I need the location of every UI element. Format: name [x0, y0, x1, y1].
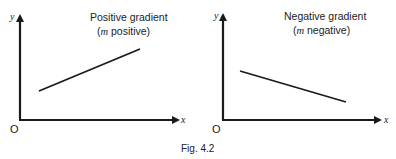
figure-caption: Fig. 4.2: [181, 143, 215, 154]
y-axis-label: y: [213, 10, 219, 21]
panel-subtitle: (m negative): [293, 24, 350, 36]
positive-gradient-line: [39, 49, 140, 91]
panel-title: Negative gradient: [284, 10, 366, 22]
x-axis-label: x: [383, 114, 389, 125]
negative-gradient-panel: y x O Negative gradient (m negative): [212, 10, 389, 135]
x-axis-label: x: [180, 114, 186, 125]
positive-gradient-panel: y x O Positive gradient (m positive): [9, 11, 186, 135]
negative-gradient-line: [240, 71, 346, 102]
panel-subtitle: (m positive): [97, 25, 150, 37]
y-axis-label: y: [9, 11, 15, 22]
origin-label: O: [212, 123, 221, 135]
figure-canvas: y x O Positive gradient (m positive) y x…: [0, 0, 396, 159]
origin-label: O: [10, 123, 19, 135]
panel-title: Positive gradient: [90, 11, 168, 23]
